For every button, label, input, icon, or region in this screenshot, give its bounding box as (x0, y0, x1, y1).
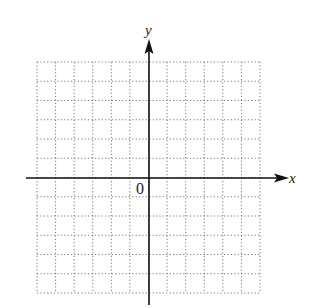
y-axis-label: y (143, 22, 152, 38)
coordinate-plane: x y 0 (0, 0, 316, 308)
x-axis-label: x (288, 170, 296, 186)
origin-label: 0 (136, 180, 144, 197)
